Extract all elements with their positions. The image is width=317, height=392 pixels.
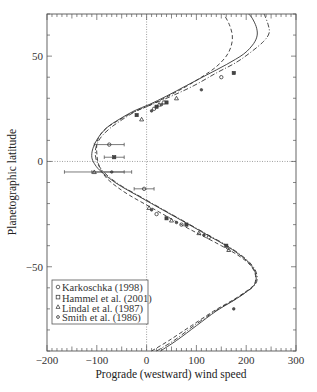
y-tick-label: 0 bbox=[38, 155, 44, 167]
data-point bbox=[225, 244, 228, 247]
y-axis-title: Planetographic latitude bbox=[6, 129, 19, 235]
data-point bbox=[200, 89, 203, 92]
data-point bbox=[203, 234, 206, 237]
data-point bbox=[232, 308, 235, 311]
data-point bbox=[170, 218, 174, 222]
data-point bbox=[155, 212, 158, 215]
data-point bbox=[232, 71, 235, 74]
y-tick-label: 50 bbox=[32, 50, 44, 62]
x-axis-title: Prograde (westward) wind speed bbox=[95, 368, 246, 381]
data-point bbox=[165, 101, 168, 104]
legend: Karkoschka (1998) Hammel et al. (2001) L… bbox=[52, 280, 152, 324]
observation-markers bbox=[64, 71, 235, 310]
wind-profile-chart: −200−1000100200300500−50 Prograde (westw… bbox=[0, 0, 317, 392]
x-tick-label: −200 bbox=[36, 354, 59, 366]
data-point bbox=[150, 209, 153, 212]
x-tick-label: −100 bbox=[85, 354, 108, 366]
data-point bbox=[140, 117, 144, 121]
data-point bbox=[185, 223, 188, 226]
data-point bbox=[110, 171, 113, 174]
data-point bbox=[174, 96, 178, 100]
data-point bbox=[175, 221, 178, 224]
data-point bbox=[165, 217, 168, 220]
x-tick-label: 300 bbox=[288, 354, 305, 366]
y-tick-label: −50 bbox=[26, 261, 44, 273]
legend-label-smith: Smith et al. (1986) bbox=[62, 312, 141, 324]
data-point bbox=[220, 75, 223, 78]
data-point bbox=[135, 114, 138, 117]
x-tick-label: 100 bbox=[188, 354, 205, 366]
x-tick-label: 0 bbox=[144, 354, 150, 366]
x-tick-label: 200 bbox=[238, 354, 255, 366]
data-point bbox=[113, 156, 116, 159]
